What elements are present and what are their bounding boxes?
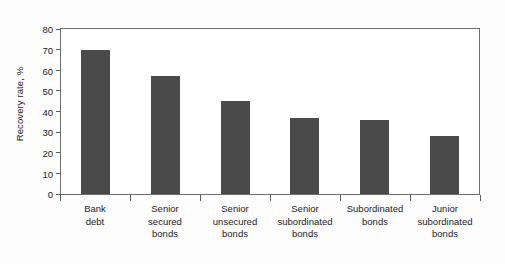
x-axis-category-label-line: subordinated: [412, 216, 478, 229]
x-axis-category-label-line: Bank: [62, 203, 128, 216]
bar-chart: Recovery rate, % 01020304050607080 Bankd…: [0, 0, 505, 264]
y-axis-tick-label: 20: [42, 149, 53, 159]
y-axis-tick-label: 70: [42, 45, 53, 55]
y-axis-tick-label: 30: [42, 128, 53, 138]
x-axis-category-label-line: unsecured: [202, 216, 268, 229]
x-axis-category-label-line: debt: [62, 216, 128, 229]
bar: [151, 76, 180, 194]
bar-slot: [340, 29, 410, 194]
y-axis-tick-label: 50: [42, 87, 53, 97]
x-axis-category-label: Seniorsubordinatedbonds: [270, 203, 340, 241]
bar: [430, 136, 459, 194]
y-axis-tick-label: 0: [48, 190, 53, 200]
y-axis-tick-label: 40: [42, 107, 53, 117]
x-axis-category-label-line: bonds: [342, 216, 408, 229]
x-axis-category-label-line: Junior: [412, 203, 478, 216]
x-axis-tick-mark: [340, 195, 341, 201]
plot-area: 01020304050607080: [60, 28, 480, 195]
x-axis-category-label: Subordinatedbonds: [340, 203, 410, 241]
x-axis-tick-mark: [270, 195, 271, 201]
x-axis-category-label: Bankdebt: [60, 203, 130, 241]
bar-slot: [131, 29, 201, 194]
x-axis-labels: BankdebtSeniorsecuredbondsSeniorunsecure…: [60, 203, 480, 241]
bar-slot: [409, 29, 479, 194]
bar-slot: [270, 29, 340, 194]
x-axis-ticks: [60, 195, 480, 201]
x-axis-tick-mark: [130, 195, 131, 201]
x-axis-category-label-line: subordinated: [272, 216, 338, 229]
y-axis-tick-label: 80: [42, 25, 53, 35]
bar: [290, 118, 319, 194]
x-axis-tick-mark: [60, 195, 61, 201]
x-axis-category-label-line: Senior: [272, 203, 338, 216]
x-axis-tick-mark: [200, 195, 201, 201]
x-axis-category-label-line: bonds: [132, 228, 198, 241]
y-axis-title: Recovery rate, %: [14, 16, 28, 192]
x-axis-category-label-line: bonds: [412, 228, 478, 241]
x-axis-category-label-line: bonds: [272, 228, 338, 241]
x-axis-category-label: Juniorsubordinatedbonds: [410, 203, 480, 241]
bar-slot: [200, 29, 270, 194]
x-axis-category-label: Seniorunsecuredbonds: [200, 203, 270, 241]
bars-group: [61, 29, 479, 194]
y-axis-tick-label: 10: [42, 169, 53, 179]
bar: [360, 120, 389, 194]
x-axis-tick-mark: [410, 195, 411, 201]
x-axis-category-label-line: Senior: [132, 203, 198, 216]
x-axis-category-label-line: Subordinated: [342, 203, 408, 216]
bar: [221, 101, 250, 194]
x-axis-category-label-line: bonds: [202, 228, 268, 241]
x-axis-category-label-line: secured: [132, 216, 198, 229]
x-axis-category-label-line: Senior: [202, 203, 268, 216]
bar: [81, 50, 110, 194]
y-axis-tick-label: 60: [42, 66, 53, 76]
x-axis-category-label: Seniorsecuredbonds: [130, 203, 200, 241]
bar-slot: [61, 29, 131, 194]
x-axis-tick-mark: [480, 195, 481, 201]
